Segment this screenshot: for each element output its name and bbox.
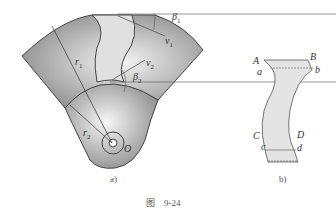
label-D: D bbox=[297, 130, 304, 140]
label-r1: r1 bbox=[75, 57, 82, 70]
hub-sector bbox=[65, 84, 158, 168]
label-b: b bbox=[315, 65, 320, 75]
figure-caption: 图 9-24 bbox=[146, 199, 181, 208]
label-beta1: β1 bbox=[172, 12, 180, 25]
blade-section bbox=[262, 60, 312, 162]
label-c: c bbox=[261, 142, 265, 152]
label-v2: v2 bbox=[146, 58, 154, 71]
label-beta2: β2 bbox=[133, 72, 141, 85]
label-C: C bbox=[253, 131, 260, 141]
label-r2: r2 bbox=[83, 128, 90, 141]
label-B: B bbox=[310, 52, 316, 62]
caption-b: b) bbox=[279, 175, 287, 184]
label-A: A bbox=[253, 56, 259, 66]
label-origin: O bbox=[124, 144, 131, 154]
label-a: a bbox=[257, 67, 262, 77]
label-v1: v1 bbox=[165, 36, 173, 49]
caption-a: a) bbox=[110, 175, 117, 184]
label-d: d bbox=[297, 143, 302, 153]
